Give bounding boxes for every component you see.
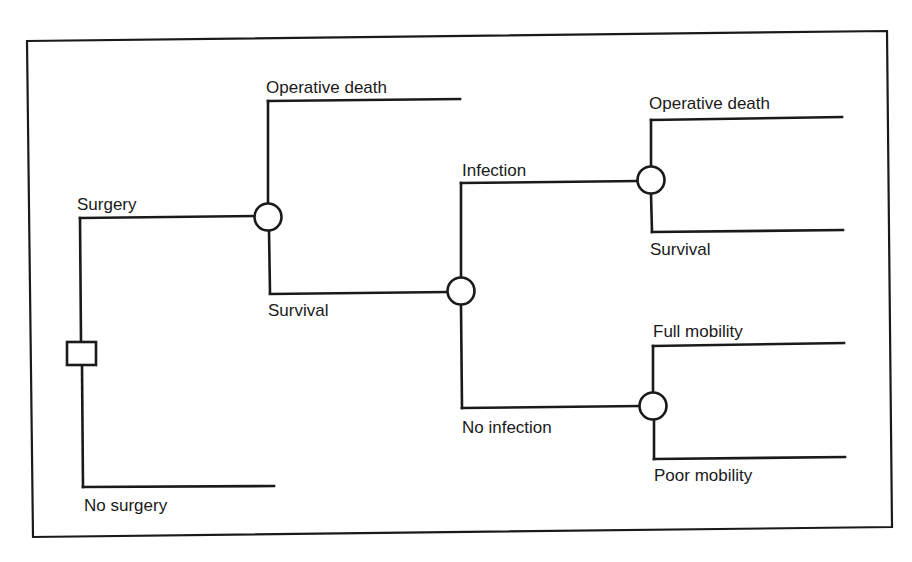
root-trunk-upper bbox=[80, 218, 81, 342]
branch-operative-death-1 bbox=[268, 99, 460, 101]
branch-survival-2 bbox=[652, 230, 843, 232]
branch-no-infection bbox=[462, 406, 640, 408]
decision-node-square bbox=[67, 342, 96, 365]
label-no-surgery: No surgery bbox=[84, 496, 168, 515]
chance-node-survival bbox=[448, 278, 475, 305]
branch-poor-mobility bbox=[654, 457, 845, 459]
label-operative-death-1: Operative death bbox=[266, 78, 387, 97]
branch-operative-death-2 bbox=[651, 117, 842, 120]
branch-infection bbox=[461, 181, 638, 183]
label-operative-death-2: Operative death bbox=[649, 94, 770, 113]
label-no-infection: No infection bbox=[462, 418, 552, 437]
label-poor-mobility: Poor mobility bbox=[654, 466, 753, 485]
chance3-lower bbox=[651, 194, 652, 232]
branch-survival-1 bbox=[270, 292, 447, 294]
root-trunk-lower bbox=[82, 365, 83, 487]
chance-node-infection bbox=[638, 167, 665, 194]
chance2-lower bbox=[461, 305, 462, 408]
chance1-lower bbox=[269, 230, 270, 293]
chance-node-surgery bbox=[255, 204, 282, 231]
chance-node-no-infection bbox=[640, 393, 667, 420]
label-surgery: Surgery bbox=[77, 195, 137, 214]
label-survival-1: Survival bbox=[268, 301, 328, 320]
branch-full-mobility bbox=[653, 343, 844, 346]
label-survival-2: Survival bbox=[650, 240, 710, 259]
branch-no-surgery bbox=[83, 486, 274, 487]
decision-tree-diagram: Surgery No surgery Operative death Survi… bbox=[0, 0, 912, 562]
label-full-mobility: Full mobility bbox=[653, 322, 743, 341]
label-infection: Infection bbox=[462, 161, 526, 180]
branch-surgery bbox=[80, 216, 255, 218]
